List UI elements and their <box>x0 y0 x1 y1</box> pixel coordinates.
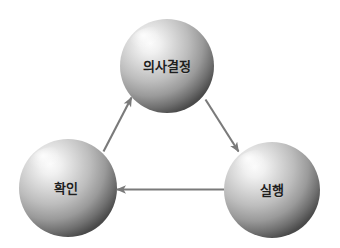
diagram-canvas: 의사결정 확인 실행 <box>0 0 340 248</box>
arrow-decision-to-execute <box>206 100 239 152</box>
arrow-confirm-to-decision <box>104 98 132 152</box>
node-sphere-confirm <box>19 139 117 237</box>
node-sphere-execute <box>224 142 320 238</box>
node-sphere-decision <box>120 19 214 113</box>
cycle-diagram-graphic <box>0 0 340 248</box>
